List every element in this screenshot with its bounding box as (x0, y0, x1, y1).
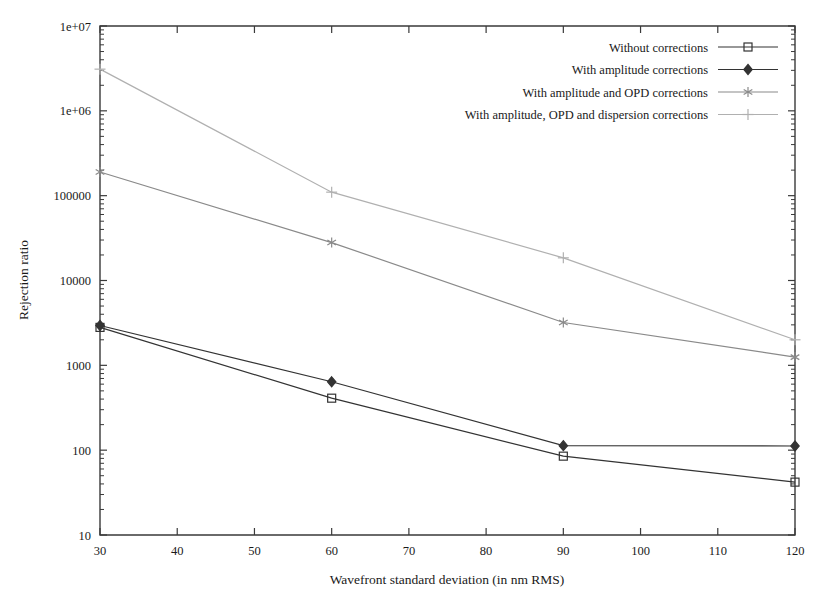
series-3 (95, 64, 801, 346)
x-axis-ticks (100, 26, 795, 535)
data-point-plus (743, 109, 754, 120)
series-1 (96, 320, 799, 451)
chart-legend: Without correctionsWith amplitude correc… (465, 41, 778, 123)
x-tick-label: 30 (94, 544, 107, 558)
y-tick-label: 100 (72, 444, 91, 458)
data-point-filled-diamond (327, 377, 335, 387)
legend-label: With amplitude corrections (572, 63, 708, 77)
data-series-layer (95, 64, 801, 486)
x-tick-label: 90 (557, 544, 570, 558)
y-tick-label: 10000 (60, 274, 91, 288)
x-axis-title: Wavefront standard deviation (in nm RMS) (330, 572, 565, 587)
x-tick-label: 100 (631, 544, 650, 558)
x-tick-label: 80 (480, 544, 493, 558)
legend-label: With amplitude, OPD and dispersion corre… (465, 108, 708, 122)
y-axis-tick-labels: 101001000100001000001e+061e+07 (54, 20, 92, 543)
legend-label: Without corrections (609, 41, 708, 55)
data-point-plus (326, 187, 337, 198)
series-0 (96, 323, 799, 486)
y-tick-label: 100000 (54, 189, 92, 203)
x-tick-label: 40 (171, 544, 184, 558)
y-tick-label: 10 (79, 529, 92, 543)
x-axis-tick-labels: 30405060708090100110120 (94, 544, 805, 558)
y-axis-ticks (100, 26, 795, 535)
data-point-filled-diamond (791, 441, 799, 451)
series-line (100, 172, 795, 357)
data-point-plus (790, 334, 801, 345)
series-line (100, 325, 795, 446)
x-tick-label: 110 (709, 544, 727, 558)
data-point-filled-diamond (744, 65, 752, 75)
y-axis-title: Rejection ratio (16, 240, 31, 320)
data-point-filled-diamond (559, 441, 567, 451)
rejection-ratio-line-chart: 101001000100001000001e+061e+07 304050607… (0, 0, 824, 615)
x-tick-label: 60 (325, 544, 338, 558)
data-point-asterisk (96, 167, 105, 177)
y-tick-label: 1e+06 (60, 104, 91, 118)
legend-label: With amplitude and OPD corrections (522, 86, 708, 100)
plot-frame (100, 26, 795, 535)
data-point-plus (95, 64, 106, 75)
x-tick-label: 70 (403, 544, 416, 558)
x-tick-label: 120 (786, 544, 805, 558)
series-2 (96, 167, 800, 362)
data-point-filled-diamond (96, 320, 104, 330)
y-tick-label: 1e+07 (60, 20, 91, 34)
data-point-asterisk (327, 238, 336, 248)
x-tick-label: 50 (248, 544, 261, 558)
data-point-plus (558, 252, 569, 263)
y-tick-label: 1000 (66, 359, 91, 373)
chart-figure: 101001000100001000001e+061e+07 304050607… (0, 0, 824, 615)
